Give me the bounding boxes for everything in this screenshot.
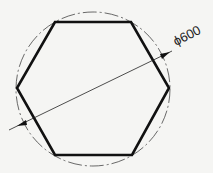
hexagon <box>17 22 169 155</box>
drawing-canvas: ϕ600 <box>0 0 213 173</box>
hexagon-diagram: ϕ600 <box>0 0 213 173</box>
dimension-arrow-lower <box>17 120 27 126</box>
dimension-line <box>9 51 172 130</box>
dimension-label: ϕ600 <box>171 22 204 49</box>
